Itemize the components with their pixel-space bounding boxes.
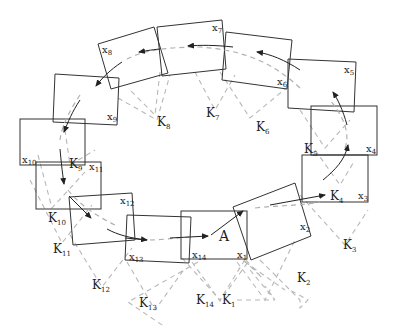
label-k3: K3 xyxy=(343,238,356,254)
label-x1: x1 xyxy=(237,249,247,262)
label-x5: x5 xyxy=(344,64,354,77)
label-x3: x3 xyxy=(358,190,368,203)
label-k5: K5 xyxy=(304,142,317,158)
keyframe-loop-diagram: x1 x2 x3 x4 x5 x6 x7 x8 x9 x10 x11 x12 x… xyxy=(0,0,393,329)
label-x6: x6 xyxy=(277,76,288,89)
label-x2: x2 xyxy=(300,221,310,234)
label-k12: K12 xyxy=(92,278,110,294)
label-x14: x14 xyxy=(192,249,207,262)
frames xyxy=(20,20,377,263)
label-k14: K14 xyxy=(196,293,214,309)
label-x13: x13 xyxy=(129,251,144,264)
label-k11: K11 xyxy=(53,242,71,258)
label-k8: K8 xyxy=(157,115,170,131)
label-x4: x4 xyxy=(366,143,377,156)
label-k1: K1 xyxy=(222,293,235,309)
start-label-a: A xyxy=(218,228,230,244)
label-k10: K10 xyxy=(48,211,66,227)
label-k2: K2 xyxy=(297,271,310,287)
label-k6: K6 xyxy=(256,120,270,136)
label-k7: K7 xyxy=(206,106,219,122)
frame-labels: x1 x2 x3 x4 x5 x6 x7 x8 x9 x10 x11 x12 x… xyxy=(22,22,377,264)
label-x9: x9 xyxy=(107,111,117,124)
label-x8: x8 xyxy=(102,44,112,57)
label-k4: K4 xyxy=(330,189,344,205)
label-k9: K9 xyxy=(69,157,82,173)
label-x7: x7 xyxy=(212,22,222,35)
label-k13: K13 xyxy=(139,296,157,312)
